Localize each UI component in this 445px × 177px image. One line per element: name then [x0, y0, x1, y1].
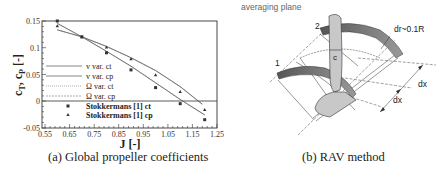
x-axis-label: J [-]	[120, 137, 141, 151]
y-tick-labels: 0.15 0.1 0.05 0 -0.05	[23, 17, 40, 133]
y-ticks	[42, 21, 46, 128]
diagram-panel-rav-method: averaging plane c 2 1	[220, 0, 445, 177]
svg-text:0.55: 0.55	[38, 130, 52, 139]
series-stokkermans-cp	[56, 24, 207, 111]
series-omega-var-cp	[57, 30, 202, 104]
chart-panel-global-coefficients: 0.15 0.1 0.05 0 -0.05 0.55 0.65 0.75 0.8…	[0, 0, 230, 177]
label-dx-1: dx	[418, 79, 428, 89]
svg-text:v var. ct: v var. ct	[86, 62, 112, 71]
caption-a: (a) Global propeller coefficients	[48, 150, 208, 165]
label-2: 2	[315, 21, 320, 31]
caption-b: (b) RAV method	[302, 150, 385, 165]
svg-text:Ω var. cp: Ω var. cp	[86, 92, 115, 101]
series-v-var-cp	[57, 30, 202, 104]
label-c: c	[333, 53, 337, 62]
svg-text:Ω var. ct: Ω var. ct	[86, 82, 114, 91]
svg-text:Stokkermans [1] ct: Stokkermans [1] ct	[86, 102, 151, 111]
svg-text:0.1: 0.1	[30, 44, 40, 53]
svg-text:v var. cp: v var. cp	[86, 72, 113, 81]
svg-text:1.15: 1.15	[185, 130, 199, 139]
label-dr: dr~0.1R	[394, 24, 424, 34]
svg-text:0.65: 0.65	[63, 130, 77, 139]
y-axis-label: cT, cP [-]	[11, 54, 27, 96]
label-averaging-plane: averaging plane	[241, 2, 302, 12]
label-dx-2: dx	[393, 95, 403, 105]
svg-text:0.05: 0.05	[26, 71, 40, 80]
x-ticks	[45, 124, 217, 128]
blade-root	[315, 92, 356, 117]
label-1: 1	[275, 58, 280, 68]
axis-lines	[270, 30, 436, 135]
svg-text:0.15: 0.15	[26, 17, 40, 26]
svg-text:0: 0	[36, 97, 40, 106]
svg-text:1.05: 1.05	[161, 130, 175, 139]
svg-text:0.75: 0.75	[87, 130, 101, 139]
svg-text:Stokkermans [1] cp: Stokkermans [1] cp	[86, 111, 153, 120]
